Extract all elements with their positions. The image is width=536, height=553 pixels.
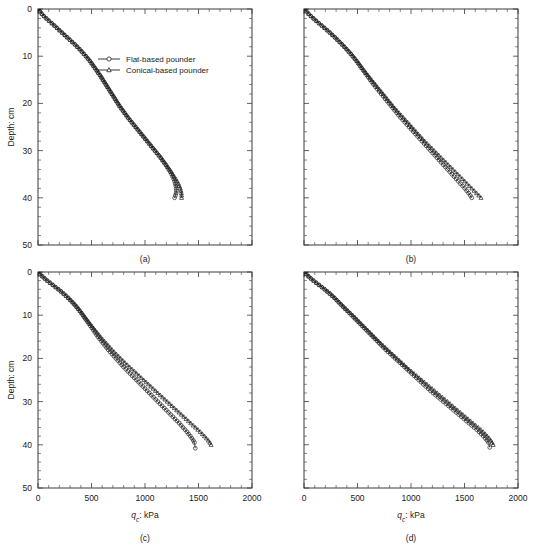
x-axis-title: qc: kPa bbox=[131, 510, 159, 523]
legend-marker-circle bbox=[107, 57, 111, 61]
series-flat-based-c bbox=[37, 270, 198, 450]
x-tick-label: 1000 bbox=[136, 493, 155, 503]
x-tick-label: 500 bbox=[84, 493, 98, 503]
y-tick-label: 0 bbox=[27, 267, 32, 277]
series-flat-based-a bbox=[37, 7, 179, 200]
y-tick-label: 0 bbox=[27, 4, 32, 14]
panel-frame-a bbox=[38, 9, 252, 245]
series-conical-based-d bbox=[303, 270, 495, 446]
y-tick-label: 20 bbox=[23, 98, 33, 108]
x-tick-label: 1500 bbox=[455, 493, 474, 503]
y-axis-title: Depth: cm bbox=[6, 108, 16, 147]
x-axis-title-unit: : kPa bbox=[139, 510, 159, 520]
series-conical-based-b bbox=[303, 7, 483, 199]
panel-frame-d bbox=[304, 272, 518, 488]
y-tick-label: 30 bbox=[23, 397, 33, 407]
series-line bbox=[305, 272, 493, 445]
x-tick-label: 2000 bbox=[509, 493, 528, 503]
panel-caption-c: (c) bbox=[140, 533, 150, 543]
series-conical-based-c bbox=[37, 270, 213, 446]
x-axis-title: qc: kPa bbox=[397, 510, 425, 523]
panel-caption-b: (b) bbox=[406, 254, 417, 264]
panel-caption-a: (a) bbox=[140, 254, 151, 264]
marker-circle bbox=[173, 196, 177, 200]
x-tick-label: 0 bbox=[36, 493, 41, 503]
y-tick-label: 30 bbox=[23, 146, 33, 156]
y-tick-label: 10 bbox=[23, 51, 33, 61]
y-tick-label: 50 bbox=[23, 240, 33, 250]
panel-caption-d: (d) bbox=[406, 533, 417, 543]
y-tick-label: 40 bbox=[23, 193, 33, 203]
x-tick-label: 1000 bbox=[402, 493, 421, 503]
y-tick-label: 40 bbox=[23, 440, 33, 450]
y-tick-label: 50 bbox=[23, 483, 33, 493]
x-axis-d: 0500100015002000 bbox=[302, 272, 528, 503]
series-line bbox=[305, 9, 472, 198]
panel-b: (b) bbox=[303, 7, 518, 264]
panel-c: 050010001500200001020304050Depth: cmqc: … bbox=[6, 267, 262, 543]
x-axis-title-unit: : kPa bbox=[405, 510, 425, 520]
y-axis-title: Depth: cm bbox=[6, 361, 16, 400]
x-tick-label: 0 bbox=[302, 493, 307, 503]
x-axis-a bbox=[38, 9, 252, 245]
y-axis-a: 01020304050Depth: cm bbox=[6, 4, 252, 250]
figure-canvas: 01020304050Depth: cmFlat-based pounderCo… bbox=[0, 0, 536, 553]
x-tick-label: 2000 bbox=[243, 493, 262, 503]
y-axis-c: 01020304050Depth: cm bbox=[6, 267, 252, 493]
panel-a: 01020304050Depth: cmFlat-based pounderCo… bbox=[6, 4, 252, 264]
y-tick-label: 10 bbox=[23, 310, 33, 320]
legend-marker-triangle bbox=[107, 68, 111, 72]
y-tick-label: 20 bbox=[23, 353, 33, 363]
figure-svg: 01020304050Depth: cmFlat-based pounderCo… bbox=[0, 0, 536, 553]
legend-label-conical-based: Conical-based pounder bbox=[126, 66, 209, 75]
x-axis-c: 0500100015002000 bbox=[36, 272, 262, 503]
series-flat-based-b bbox=[303, 7, 474, 200]
panel-d: 0500100015002000qc: kPa(d) bbox=[302, 270, 528, 543]
x-tick-label: 1500 bbox=[189, 493, 208, 503]
y-axis-d bbox=[304, 272, 518, 488]
legend-label-flat-based: Flat-based pounder bbox=[126, 55, 196, 64]
x-tick-label: 500 bbox=[350, 493, 364, 503]
series-conical-based-a bbox=[37, 7, 184, 199]
legend: Flat-based pounderConical-based pounder bbox=[98, 55, 209, 75]
series-line bbox=[39, 9, 182, 198]
series-line bbox=[39, 9, 177, 198]
